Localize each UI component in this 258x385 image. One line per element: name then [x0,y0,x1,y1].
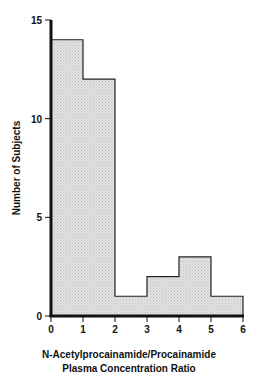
histogram-chart: 051015 0123456 Number of Subjects [0,0,258,340]
x-tick-label: 0 [48,324,54,335]
y-axis-label: Number of Subjects [11,120,22,215]
x-tick-label: 1 [80,324,86,335]
x-axis-label-line-1: N-Acetylprocainamide/Procainamide [0,348,258,362]
y-tick-label: 10 [31,114,43,125]
y-tick-label: 0 [36,311,42,322]
y-tick-label: 15 [31,15,43,26]
y-tick-label: 5 [36,212,42,223]
x-tick-label: 2 [112,324,118,335]
x-tick-label: 3 [144,324,150,335]
x-axis-label-line-2: Plasma Concentration Ratio [0,362,258,376]
x-axis: 0123456 [48,316,246,335]
x-tick-label: 6 [240,324,246,335]
histogram-area [51,40,243,316]
histogram-bars [51,40,243,316]
x-tick-label: 5 [208,324,214,335]
x-axis-label: N-Acetylprocainamide/Procainamide Plasma… [0,348,258,376]
x-tick-label: 4 [176,324,182,335]
y-axis: 051015 [31,15,51,322]
